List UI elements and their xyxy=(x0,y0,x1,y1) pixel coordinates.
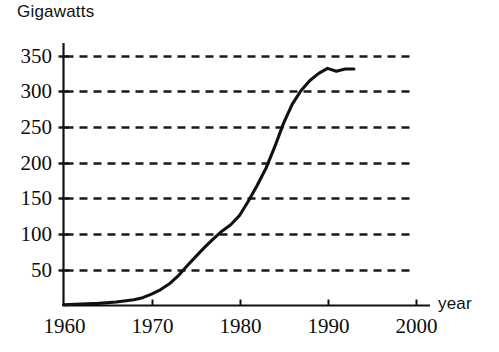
plot-area xyxy=(0,0,499,352)
x-tick-label: 1990 xyxy=(291,314,367,339)
y-tick-label: 150 xyxy=(0,186,52,211)
y-tick-label: 100 xyxy=(0,222,52,247)
y-tick-label: 200 xyxy=(0,151,52,176)
x-tick-label: 1970 xyxy=(115,314,191,339)
y-tick-label: 350 xyxy=(0,44,52,69)
gridlines-group xyxy=(66,57,416,271)
y-tick-label: 50 xyxy=(0,258,52,283)
x-tick-label: 2000 xyxy=(379,314,455,339)
x-tick-label: 1960 xyxy=(27,314,103,339)
y-tick-label: 250 xyxy=(0,115,52,140)
x-tick-label: 1980 xyxy=(203,314,279,339)
chart-figure: Gigawatts year 50100150200250300350 1960… xyxy=(0,0,499,352)
y-tick-label: 300 xyxy=(0,79,52,104)
